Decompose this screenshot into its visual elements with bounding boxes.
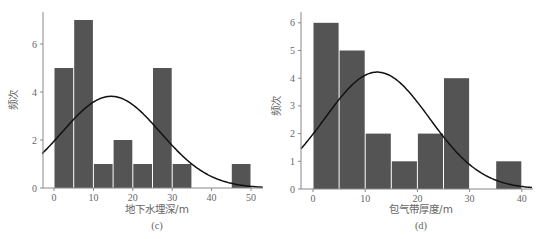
y-tick-label: 6 xyxy=(32,39,37,50)
x-tick-label: 0 xyxy=(311,193,316,204)
x-tick-label: 10 xyxy=(88,192,98,203)
histogram-bar xyxy=(392,161,417,189)
x-tick-label: 20 xyxy=(128,192,138,203)
histogram-bar xyxy=(418,134,443,189)
histogram-bar xyxy=(94,164,113,188)
chart-d-x-axis-title: 包气带厚度/m xyxy=(389,203,453,215)
y-tick-label: 6 xyxy=(290,17,295,28)
histogram-bar xyxy=(340,51,365,190)
chart-c-bars xyxy=(55,20,251,188)
chart-c-groundwater-depth: 024601020304050 地下水埋深/m 频次 (c) xyxy=(7,12,263,232)
y-tick-label: 5 xyxy=(290,45,295,56)
y-tick-label: 3 xyxy=(290,100,295,111)
x-tick-label: 40 xyxy=(207,192,217,203)
chart-c-x-axis-title: 地下水埋深/m xyxy=(125,203,189,215)
x-tick-label: 40 xyxy=(517,193,527,204)
y-tick-label: 0 xyxy=(32,183,37,194)
histogram-bar xyxy=(55,68,74,188)
histogram-figure: 024601020304050 地下水埋深/m 频次 (c) 012345601… xyxy=(0,0,541,239)
x-tick-label: 10 xyxy=(360,193,370,204)
y-tick-label: 0 xyxy=(290,184,295,195)
y-tick-label: 2 xyxy=(32,135,37,146)
chart-d-vadose-zone-thickness: 0123456010203040 包气带厚度/m 频次 (d) xyxy=(270,12,533,232)
x-tick-label: 50 xyxy=(246,192,256,203)
y-tick-label: 1 xyxy=(290,156,295,167)
histogram-bar xyxy=(173,164,192,188)
x-tick-label: 30 xyxy=(465,193,475,204)
chart-d-bars xyxy=(314,23,522,189)
y-tick-label: 4 xyxy=(32,87,37,98)
histogram-bar xyxy=(133,164,152,188)
chart-c-y-axis-title: 频次 xyxy=(7,89,19,110)
histogram-bar xyxy=(114,140,133,188)
chart-d-y-axis-title: 频次 xyxy=(270,95,282,116)
y-tick-label: 4 xyxy=(290,73,295,84)
x-tick-label: 0 xyxy=(52,192,57,203)
x-tick-label: 30 xyxy=(167,192,177,203)
histogram-bar xyxy=(366,134,391,189)
histogram-bar xyxy=(444,78,469,189)
chart-d-caption: (d) xyxy=(415,220,428,232)
y-tick-label: 2 xyxy=(290,128,295,139)
chart-c-caption: (c) xyxy=(151,220,163,232)
